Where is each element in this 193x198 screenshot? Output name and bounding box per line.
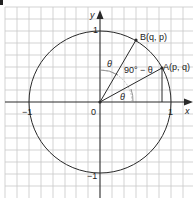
theta-arc-y — [100, 70, 118, 75]
x-axis-label: x — [184, 106, 190, 116]
point-origin — [98, 100, 101, 103]
tick-x-pos: 1 — [168, 107, 173, 117]
angle-theta-y-label: θ — [107, 59, 112, 69]
unit-circle-diagram: y x 0 1 −1 1 −1 B(q, p) A(p, q) θ 90° − … — [0, 0, 193, 198]
tick-y-neg: −1 — [87, 171, 97, 181]
point-B-label: B(q, p) — [140, 32, 167, 42]
origin-label: 0 — [91, 107, 96, 117]
x-axis-arrow-icon — [184, 99, 193, 106]
corner-mark — [0, 0, 3, 5]
angle-complement-label: 90° − θ — [124, 65, 153, 75]
y-axis-label: y — [89, 10, 95, 20]
point-B — [134, 38, 137, 41]
tick-x-neg: −1 — [22, 107, 32, 117]
y-axis-arrow-icon — [97, 10, 104, 19]
point-A-label: A(p, q) — [163, 62, 190, 72]
angle-theta-x-label: θ — [120, 92, 125, 102]
tick-y-pos: 1 — [93, 25, 98, 35]
